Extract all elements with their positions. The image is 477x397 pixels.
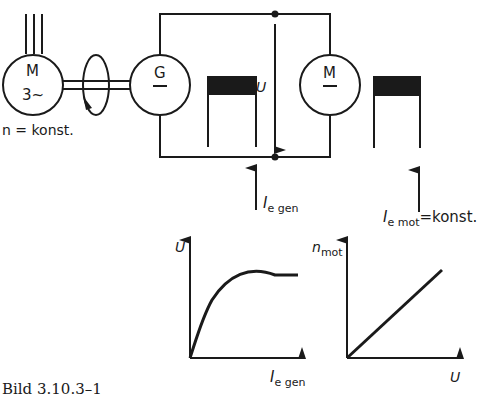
motor-field-winding	[374, 77, 420, 148]
generator-field-winding	[208, 77, 256, 147]
chart1-axes	[190, 240, 302, 358]
shaft	[63, 81, 130, 89]
figure-caption: Bild 3.10.3–1	[2, 382, 102, 397]
rotation-arrowhead	[83, 96, 92, 110]
chart1-saturation-curve	[190, 271, 298, 358]
mot-excitation-label: Ie mot=konst.	[383, 210, 477, 225]
speed-label: n = konst.	[2, 123, 74, 137]
three-phase-supply-lines	[26, 14, 42, 54]
gen-excitation-label: Ie gen	[263, 196, 298, 211]
ac-motor-symbol: M	[26, 64, 39, 79]
chart1-y-label: U	[175, 240, 185, 254]
chart2-x-label: U	[450, 370, 460, 384]
ac-motor-type: 3~	[22, 88, 44, 103]
chart2-y-label: nmot	[312, 240, 343, 254]
generator-symbol: G	[154, 66, 166, 81]
chart1-x-label: Ie gen	[270, 370, 305, 385]
voltage-label: U	[256, 80, 266, 94]
dc-motor-symbol: M	[323, 66, 336, 81]
chart2-linear-line	[347, 270, 442, 358]
